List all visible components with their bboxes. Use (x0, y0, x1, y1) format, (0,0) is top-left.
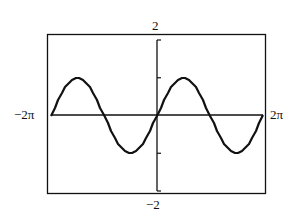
y-max-label: 2 (152, 19, 159, 32)
y-min-label: −2 (146, 198, 160, 211)
x-min-label: −2π (14, 108, 34, 121)
x-max-label: 2π (270, 108, 283, 121)
sine-chart (0, 0, 302, 218)
